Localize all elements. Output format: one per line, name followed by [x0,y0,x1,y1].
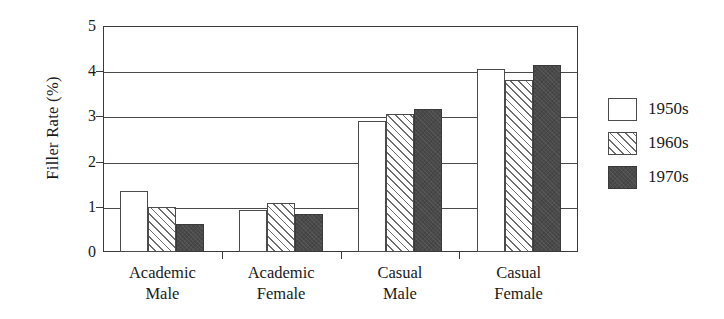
y-axis-tick-mark [96,71,103,72]
y-axis-tick-label: 0 [68,244,96,260]
category-label-line1: Casual [496,263,541,282]
bar-1950s-casual-female[interactable] [477,69,505,252]
y-axis-tick-label: 1 [68,199,96,215]
bar-1950s-academic-female[interactable] [239,210,267,252]
bar-group [239,26,323,252]
legend-item-1960s[interactable]: 1960s [608,126,689,160]
bar-1960s-casual-female[interactable] [505,80,533,252]
chart-figure: Filler Rate (%) 012345 AcademicMaleAcade… [0,0,724,319]
y-axis-tick-mark [96,207,103,208]
bar-1960s-casual-male[interactable] [386,114,414,252]
y-axis-tick-label: 2 [68,154,96,170]
bar-1970s-academic-female[interactable] [295,214,323,252]
y-axis-tick-label: 5 [68,18,96,34]
legend-label-1960s: 1960s [648,133,689,153]
y-axis-tick-label: 3 [68,108,96,124]
bar-group [120,26,204,252]
category-label-line2: Male [103,283,222,304]
category-label-line2: Male [341,283,460,304]
category-label-line1: Academic [248,263,315,282]
x-axis-tick-mark [459,252,460,259]
category-label-line2: Female [459,283,578,304]
x-axis-category-casual-female: CasualFemale [459,262,578,304]
x-axis-tick-mark [341,252,342,259]
y-axis-title: Filler Rate (%) [43,28,63,228]
chart-legend: 1950s1960s1970s [608,92,689,194]
bar-group [477,26,561,252]
legend-item-1950s[interactable]: 1950s [608,92,689,126]
category-label-line2: Female [222,283,341,304]
bar-1970s-academic-male[interactable] [176,224,204,252]
x-axis-tick-mark [222,252,223,259]
category-label-line1: Casual [377,263,422,282]
bar-1970s-casual-male[interactable] [414,109,442,252]
legend-label-1950s: 1950s [648,99,689,119]
bar-group [358,26,442,252]
legend-item-1970s[interactable]: 1970s [608,160,689,194]
x-axis-category-academic-female: AcademicFemale [222,262,341,304]
legend-label-1970s: 1970s [648,167,689,187]
bar-1970s-casual-female[interactable] [533,65,561,252]
legend-swatch-1950s [608,98,637,121]
bar-1950s-academic-male[interactable] [120,191,148,252]
bar-1960s-academic-female[interactable] [267,203,295,252]
y-axis-tick-mark [96,116,103,117]
bar-layer [103,26,578,252]
category-label-line1: Academic [129,263,196,282]
x-axis-category-academic-male: AcademicMale [103,262,222,304]
bar-1960s-academic-male[interactable] [148,207,176,252]
legend-swatch-1960s [608,132,637,155]
bar-1950s-casual-male[interactable] [358,121,386,252]
legend-swatch-1970s [608,166,637,189]
y-axis-tick-mark [96,162,103,163]
y-axis-tick-label: 4 [68,63,96,79]
x-axis-category-casual-male: CasualMale [341,262,460,304]
y-axis-tick-labels: 012345 [66,26,96,252]
